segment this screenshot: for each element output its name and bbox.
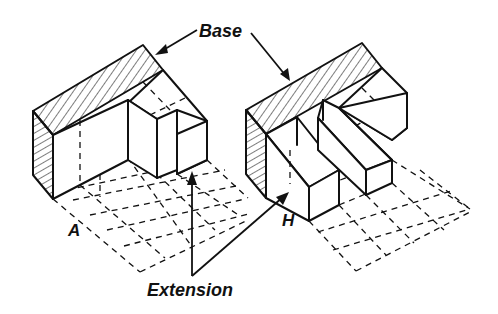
extension-arrow-h — [192, 197, 283, 276]
base-annotation: Base — [155, 21, 290, 81]
figure-a-extension-box-2 — [177, 110, 207, 174]
base-extension-diagram: A — [0, 0, 498, 314]
arrow-head-icon — [187, 171, 197, 185]
figure-h: H — [246, 43, 470, 271]
extension-label: Extension — [147, 280, 233, 300]
figure-a: A — [33, 45, 248, 272]
arrow-head-icon — [155, 44, 168, 55]
figure-h-label: H — [282, 211, 295, 230]
base-arrow-h — [251, 33, 286, 76]
base-label: Base — [199, 21, 242, 41]
figure-a-label: A — [67, 221, 80, 240]
